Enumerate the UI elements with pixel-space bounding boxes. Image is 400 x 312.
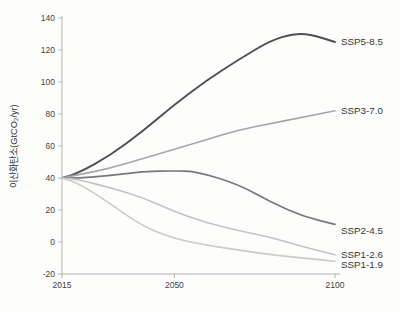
series-line-ssp2-4.5 [62, 171, 335, 224]
x-tick-label: 2015 [53, 280, 72, 290]
series-label-ssp1-2.6: SSP1-2.6 [341, 249, 383, 260]
y-tick-label: 40 [46, 173, 56, 183]
y-tick-label: 60 [46, 141, 56, 151]
series-line-ssp3-7.0 [62, 111, 335, 178]
x-tick-label: 2100 [326, 280, 345, 290]
series-label-ssp1-1.9: SSP1-1.9 [341, 259, 383, 270]
series-label-ssp3-7.0: SSP3-7.0 [341, 105, 383, 116]
y-tick-label: 100 [41, 77, 55, 87]
y-tick-label: 0 [50, 237, 55, 247]
y-tick-label: -20 [43, 269, 56, 279]
y-axis-title: 이산화탄소(GtCO₂/yr) [9, 104, 19, 187]
series-label-ssp5-8.5: SSP5-8.5 [341, 36, 383, 47]
series-line-ssp5-8.5 [62, 34, 335, 178]
y-tick-label: 140 [41, 13, 55, 23]
y-tick-label: 80 [46, 109, 56, 119]
x-tick-label: 2050 [165, 280, 184, 290]
series-label-ssp2-4.5: SSP2-4.5 [341, 225, 383, 236]
ssp-emissions-chart: 140120100806040200-20201520502100이산화탄소(G… [0, 0, 400, 312]
y-tick-label: 120 [41, 45, 55, 55]
ssp-emissions-chart-panel: 140120100806040200-20201520502100이산화탄소(G… [0, 0, 400, 312]
y-tick-label: 20 [46, 205, 56, 215]
